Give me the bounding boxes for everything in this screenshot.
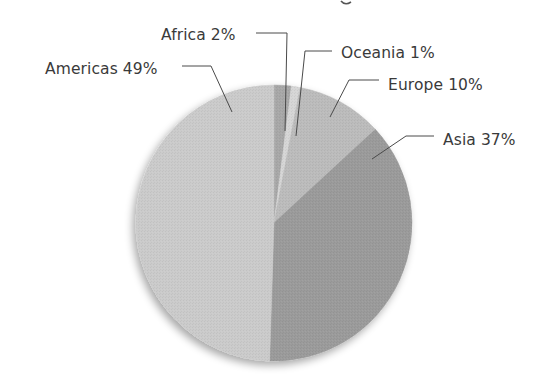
slice-label-africa: Africa 2% xyxy=(161,26,236,44)
pie-chart: Africa 2%Oceania 1%Europe 10%Asia 37%Ame… xyxy=(0,0,550,390)
slice-texture-americas xyxy=(136,85,274,361)
pie-texture xyxy=(136,85,412,361)
pie-chart-canvas: Africa 2%Oceania 1%Europe 10%Asia 37%Ame… xyxy=(0,0,550,390)
cropped-title-fragment xyxy=(341,1,351,4)
slice-label-europe: Europe 10% xyxy=(388,76,483,94)
slice-label-asia: Asia 37% xyxy=(443,131,516,149)
slice-label-americas: Americas 49% xyxy=(45,60,158,78)
slice-label-oceania: Oceania 1% xyxy=(341,44,435,62)
